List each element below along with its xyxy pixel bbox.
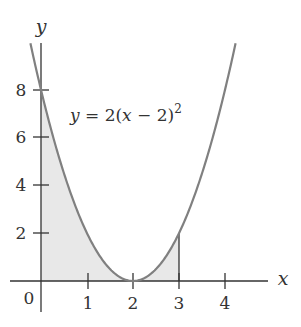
equation-rest: − 2) <box>132 105 175 125</box>
x-axis-label: x <box>278 267 289 289</box>
origin-label: 0 <box>24 288 35 308</box>
y-tick-label-4: 4 <box>16 175 27 195</box>
equation-lhs: y <box>69 105 80 125</box>
equation-label: y = 2(x − 2)2 <box>69 102 182 125</box>
x-tick-label-1: 1 <box>83 293 94 313</box>
y-tick-label-6: 6 <box>16 127 27 147</box>
x-tick-label-4: 4 <box>220 293 231 313</box>
x-tick-label-3: 3 <box>174 293 185 313</box>
parabola-figure: 1 2 3 4 0 8 6 4 2 y x y = 2(x − 2)2 <box>0 0 301 327</box>
x-tick-label-2: 2 <box>128 293 139 313</box>
y-tick-label-2: 2 <box>16 223 27 243</box>
y-axis-label: y <box>35 15 47 37</box>
equation-var: x <box>122 105 132 125</box>
y-tick-label-8: 8 <box>16 80 27 100</box>
equation-exponent: 2 <box>174 102 182 116</box>
equation-eq: = 2( <box>80 105 123 125</box>
